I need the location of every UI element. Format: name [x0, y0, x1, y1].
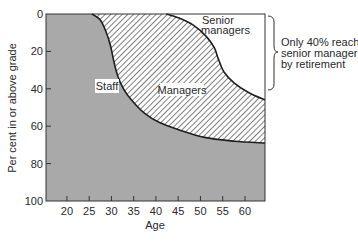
y-tick-label: 20 [31, 45, 43, 57]
annotation-line3: by retirement [281, 58, 345, 70]
x-axis-title: Age [145, 219, 165, 231]
managers-label: Managers [158, 84, 207, 96]
x-tick-label: 60 [239, 205, 251, 217]
y-tick-label: 60 [31, 120, 43, 132]
y-tick-label: 40 [31, 83, 43, 95]
x-tick-label: 45 [172, 205, 184, 217]
y-tick-label: 80 [31, 158, 43, 170]
x-axis: 202530354045505560 [61, 196, 251, 217]
plot-area [46, 14, 265, 201]
chart-canvas: 202530354045505560 020406080100 Staff Ma… [0, 0, 358, 243]
x-tick-label: 30 [105, 205, 117, 217]
staff-label: Staff [96, 80, 119, 92]
y-axis-title: Per cent in or above grade [6, 43, 18, 173]
x-tick-label: 25 [83, 205, 95, 217]
x-tick-label: 40 [150, 205, 162, 217]
y-tick-label: 100 [25, 195, 43, 207]
y-tick-label: 0 [37, 8, 43, 20]
curly-brace-icon [268, 16, 278, 90]
senior-managers-label-line2: managers [201, 24, 250, 36]
x-tick-label: 35 [128, 205, 140, 217]
x-tick-label: 55 [217, 205, 229, 217]
x-tick-label: 20 [61, 205, 73, 217]
x-tick-label: 50 [194, 205, 206, 217]
